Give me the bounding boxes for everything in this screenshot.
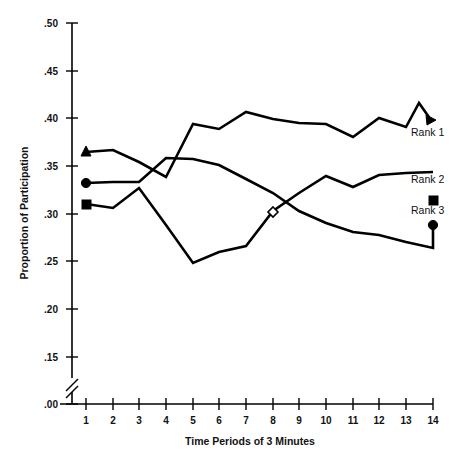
series-rank-1-line bbox=[86, 103, 431, 177]
series-rank-3-start-marker-square bbox=[82, 200, 91, 209]
x-tick-label-4: 4 bbox=[163, 415, 169, 426]
x-tick-label-10: 10 bbox=[320, 415, 332, 426]
x-tick-label-9: 9 bbox=[296, 415, 302, 426]
series-rank-1 bbox=[81, 103, 436, 177]
y-tick-label-045: .45 bbox=[44, 66, 58, 77]
series-rank-2-start-marker-circle bbox=[81, 178, 90, 187]
x-tick-label-12: 12 bbox=[373, 415, 385, 426]
x-tick-label-6: 6 bbox=[216, 415, 222, 426]
axis-break-upper bbox=[66, 379, 78, 391]
x-tick-label-5: 5 bbox=[190, 415, 196, 426]
x-tick-label-11: 11 bbox=[348, 415, 359, 426]
line-chart-svg: .50 .45 .40 .35 .30 .25 .20 .15 .00 1 2 bbox=[0, 0, 459, 453]
series-rank-2-end-marker-circle bbox=[428, 220, 437, 229]
y-tick-label-025: .25 bbox=[44, 256, 58, 267]
x-tick-label-3: 3 bbox=[136, 415, 142, 426]
series-rank-1-end-marker-triangle bbox=[426, 115, 436, 125]
x-tick-label-7: 7 bbox=[243, 415, 249, 426]
y-tick-label-030: .30 bbox=[44, 209, 58, 220]
series-label-rank-3: Rank 3 bbox=[411, 204, 444, 216]
series-label-rank-1: Rank 1 bbox=[411, 126, 444, 138]
series-rank-2-line bbox=[86, 158, 433, 248]
x-tick-label-14: 14 bbox=[427, 415, 439, 426]
y-tick-label-050: .50 bbox=[44, 18, 58, 29]
y-tick-label-035: .35 bbox=[44, 161, 58, 172]
x-tick-label-1: 1 bbox=[83, 415, 89, 426]
x-tick-label-8: 8 bbox=[270, 415, 276, 426]
series-label-rank-2: Rank 2 bbox=[411, 173, 444, 185]
y-tick-label-015: .15 bbox=[44, 352, 58, 363]
x-tick-label-2: 2 bbox=[110, 415, 116, 426]
series-rank-2 bbox=[81, 158, 437, 248]
y-tick-label-000: .00 bbox=[44, 399, 58, 410]
y-tick-label-020: .20 bbox=[44, 304, 58, 315]
x-tick-label-13: 13 bbox=[400, 415, 412, 426]
y-axis-title: Proportion of Participation bbox=[18, 147, 30, 280]
x-axis-title: Time Periods of 3 Minutes bbox=[185, 435, 315, 447]
chart-figure: .50 .45 .40 .35 .30 .25 .20 .15 .00 1 2 bbox=[0, 0, 459, 453]
y-tick-label-040: .40 bbox=[44, 113, 58, 124]
